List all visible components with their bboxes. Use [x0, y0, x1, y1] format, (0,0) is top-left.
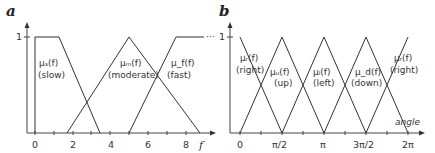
panel-a-x-tick-8: 8: [183, 139, 189, 150]
panel-a-x-tick-6: 6: [145, 139, 151, 150]
panel-a-ellipsis: ···: [206, 32, 215, 42]
panel-b-x-label: angle: [395, 117, 420, 127]
label-moderate-mu: μₘ(f): [120, 58, 142, 68]
panel-a: a 1 0 2 4 6 8 f ··· μₛ(f: [6, 2, 216, 152]
label-down-mu: μ_d(f): [355, 67, 381, 77]
panel-b-x-tick-pi: π: [320, 139, 326, 150]
panel-b-x-tick-0: 0: [237, 139, 243, 150]
label-right2-name: (right): [390, 65, 418, 75]
panel-a-x-tick-2: 2: [70, 139, 76, 150]
panel-a-letter: a: [6, 2, 16, 20]
panel-b: b 1 0 π/2 π 3π/2 2π angle: [219, 2, 425, 150]
panel-a-y-arrow-icon: [25, 22, 30, 28]
label-slow-mu: μₛ(f): [39, 58, 58, 68]
label-slow-name: (slow): [38, 70, 65, 80]
label-left-name: (left): [313, 78, 335, 88]
panel-b-x-tick-pi-2: π/2: [272, 139, 287, 150]
curve-moderate: [67, 37, 200, 133]
label-right1-mu: μᵣ(f): [240, 53, 258, 63]
figure: a 1 0 2 4 6 8 f ··· μₛ(f: [0, 0, 435, 153]
curve-slow: [35, 37, 100, 133]
label-left-mu: μₗ(f): [313, 67, 330, 77]
panel-a-x-tick-4: 4: [108, 139, 114, 150]
panel-a-x-label: f: [198, 139, 205, 152]
label-right2-mu: μᵣ(f): [394, 53, 412, 63]
panel-a-x-tick-0: 0: [32, 139, 38, 150]
panel-a-y-tick: 1: [16, 31, 22, 42]
label-right1-name: (right): [236, 65, 264, 75]
label-fast-mu: μ_f(f): [171, 58, 195, 68]
label-up-name: (up): [274, 78, 292, 88]
panel-b-y-arrow-icon: [228, 22, 233, 28]
panel-b-x-arrow-icon: [419, 131, 425, 136]
panel-a-x-arrow-icon: [210, 131, 216, 136]
panel-b-y-tick: 1: [219, 31, 225, 42]
panel-b-letter: b: [219, 2, 230, 20]
label-fast-name: (fast): [167, 70, 191, 80]
label-down-name: (down): [351, 78, 382, 88]
panel-b-x-tick-3pi-2: 3π/2: [353, 139, 374, 150]
label-moderate-name: (moderate): [108, 70, 159, 80]
panel-b-x-tick-2pi: 2π: [402, 139, 414, 150]
label-up-mu: μᵤ(f): [270, 67, 290, 77]
